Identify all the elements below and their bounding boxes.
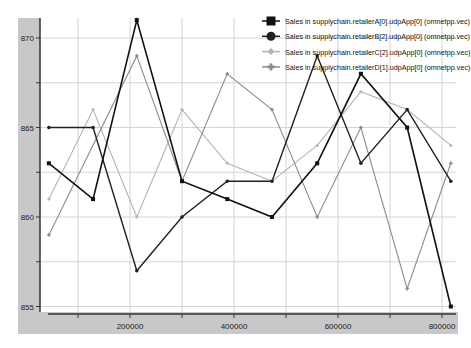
plus-marker-icon — [449, 162, 453, 166]
square-marker-icon — [91, 197, 95, 201]
circle-marker-icon — [225, 179, 229, 183]
legend-label: Sales in supplychain.retailerA[0].udpApp… — [285, 17, 470, 26]
circle-marker-icon — [267, 32, 276, 41]
legend-item: Sales in supplychain.retailerD[1].udpApp… — [262, 63, 470, 72]
y-tick-label: 865 — [21, 124, 35, 133]
x-tick-label: 400000 — [221, 322, 248, 331]
legend: Sales in supplychain.retailerA[0].udpApp… — [262, 17, 470, 72]
square-marker-icon — [270, 215, 274, 219]
legend-label: Sales in supplychain.retailerC[2].udpApp… — [285, 48, 470, 57]
series-line — [49, 56, 451, 271]
circle-marker-icon — [180, 215, 184, 219]
plus-marker-icon — [315, 215, 319, 219]
square-marker-icon — [315, 161, 319, 165]
x-tick-label: 800000 — [429, 322, 456, 331]
series-1 — [47, 54, 453, 272]
chart-canvas: 855860865870200000400000600000800000 Sal… — [0, 0, 471, 348]
diamond-marker-icon — [268, 48, 275, 55]
square-marker-icon — [405, 126, 409, 130]
plus-marker-icon — [359, 126, 363, 130]
plus-marker-icon — [268, 63, 275, 70]
plus-marker-icon — [135, 54, 139, 58]
diamond-marker-icon — [135, 215, 139, 219]
data-series — [47, 18, 453, 308]
legend-item: Sales in supplychain.retailerA[0].udpApp… — [262, 17, 470, 27]
circle-marker-icon — [47, 126, 51, 130]
diamond-marker-icon — [47, 197, 51, 201]
x-tick-label: 200000 — [117, 322, 144, 331]
circle-marker-icon — [91, 126, 95, 130]
square-marker-icon — [225, 197, 229, 201]
legend-label: Sales in supplychain.retailerD[1].udpApp… — [285, 63, 470, 72]
square-marker-icon — [267, 17, 276, 26]
left-axis-panel — [18, 18, 40, 312]
legend-item: Sales in supplychain.retailerC[2].udpApp… — [262, 48, 470, 57]
series-0 — [47, 18, 453, 308]
legend-item: Sales in supplychain.retailerB[2].udpApp… — [262, 32, 470, 42]
plus-marker-icon — [47, 233, 51, 237]
y-tick-label: 870 — [21, 34, 35, 43]
line-chart: 855860865870200000400000600000800000 Sal… — [0, 0, 471, 348]
circle-marker-icon — [135, 269, 139, 273]
circle-marker-icon — [359, 162, 363, 166]
series-line — [49, 92, 451, 217]
diamond-marker-icon — [91, 108, 95, 112]
circle-marker-icon — [449, 179, 453, 183]
y-tick-label: 855 — [21, 303, 35, 312]
circle-marker-icon — [405, 108, 409, 112]
square-marker-icon — [180, 179, 184, 183]
square-marker-icon — [135, 18, 139, 22]
square-marker-icon — [449, 305, 453, 309]
x-tick-label: 600000 — [325, 322, 352, 331]
legend-label: Sales in supplychain.retailerB[2].udpApp… — [285, 32, 470, 41]
y-tick-label: 860 — [21, 213, 35, 222]
square-marker-icon — [47, 161, 51, 165]
circle-marker-icon — [270, 179, 274, 183]
plus-marker-icon — [405, 287, 409, 291]
square-marker-icon — [359, 72, 363, 76]
